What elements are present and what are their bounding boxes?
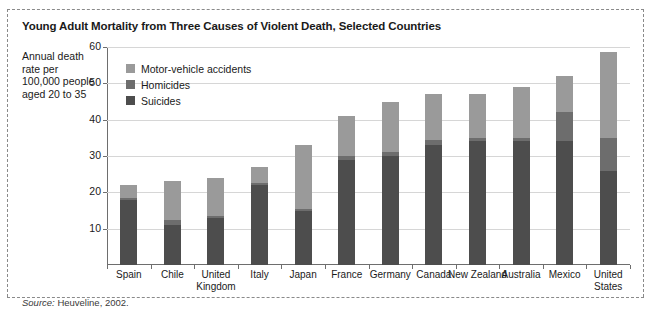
y-axis-label: Annual death rate per 100,000 people age… [22, 50, 98, 100]
bar-segment-motor-vehicle-accidents [600, 52, 617, 137]
stacked-bar[interactable] [469, 94, 486, 265]
bar-segment-suicides [382, 156, 399, 265]
stacked-bar[interactable] [207, 178, 224, 265]
bar-slot [543, 47, 587, 265]
bar-segment-suicides [207, 218, 224, 265]
legend-item-homicides[interactable]: Homicides [126, 78, 251, 91]
legend-label: Suicides [141, 95, 181, 107]
bar-slot [499, 47, 543, 265]
bar-segment-motor-vehicle-accidents [425, 94, 442, 139]
bar-segment-homicides [600, 138, 617, 171]
legend-swatch-icon [126, 64, 135, 73]
legend-item-suicides[interactable]: Suicides [126, 94, 251, 107]
bar-segment-motor-vehicle-accidents [338, 116, 355, 156]
x-tick-mark [630, 265, 631, 269]
bar-segment-suicides [556, 141, 573, 265]
bar-segment-suicides [600, 171, 617, 265]
y-tick-label-40: 40 [75, 113, 101, 125]
bar-segment-suicides [164, 225, 181, 265]
legend-label: Motor-vehicle accidents [141, 63, 251, 75]
stacked-bar[interactable] [425, 94, 442, 265]
stacked-bar[interactable] [556, 76, 573, 265]
bar-slot [456, 47, 500, 265]
stacked-bar[interactable] [251, 167, 268, 265]
y-tick-label-20: 20 [75, 185, 101, 197]
bar-segment-suicides [425, 145, 442, 265]
legend-item-motor-vehicle[interactable]: Motor-vehicle accidents [126, 62, 251, 75]
bar-segment-suicides [120, 200, 137, 265]
bar-segment-motor-vehicle-accidents [164, 181, 181, 219]
stacked-bar[interactable] [382, 102, 399, 265]
bar-segment-motor-vehicle-accidents [120, 185, 137, 198]
bar-segment-suicides [338, 160, 355, 265]
legend-swatch-icon [126, 80, 135, 89]
legend-swatch-icon [126, 96, 135, 105]
bar-segment-motor-vehicle-accidents [469, 94, 486, 138]
bar-segment-motor-vehicle-accidents [513, 87, 530, 138]
chart-legend: Motor-vehicle accidentsHomicidesSuicides [126, 62, 251, 110]
figure-container: Young Adult Mortality from Three Causes … [0, 0, 651, 316]
bar-slot [586, 47, 630, 265]
stacked-bar[interactable] [600, 52, 617, 265]
bar-segment-homicides [556, 112, 573, 141]
stacked-bar[interactable] [120, 185, 137, 265]
stacked-bar[interactable] [513, 87, 530, 265]
bar-segment-suicides [513, 141, 530, 265]
bar-segment-motor-vehicle-accidents [295, 145, 312, 209]
bar-segment-motor-vehicle-accidents [382, 102, 399, 153]
bar-segment-motor-vehicle-accidents [251, 167, 268, 183]
source-prefix: Source: [22, 297, 55, 308]
legend-label: Homicides [141, 79, 190, 91]
bar-slot [369, 47, 413, 265]
bar-slot [325, 47, 369, 265]
y-tick-label-60: 60 [75, 40, 101, 52]
y-tick-label-30: 30 [75, 149, 101, 161]
y-tick-label-50: 50 [75, 76, 101, 88]
stacked-bar[interactable] [338, 116, 355, 265]
stacked-bar[interactable] [164, 181, 181, 265]
y-tick-label-10: 10 [75, 222, 101, 234]
bar-segment-suicides [295, 211, 312, 266]
stacked-bar[interactable] [295, 145, 312, 265]
bar-slot [412, 47, 456, 265]
bar-segment-suicides [251, 185, 268, 265]
source-text: Heuveline, 2002. [57, 297, 128, 308]
bar-segment-motor-vehicle-accidents [207, 178, 224, 216]
bar-segment-motor-vehicle-accidents [556, 76, 573, 112]
bar-slot [281, 47, 325, 265]
chart-title: Young Adult Mortality from Three Causes … [22, 20, 441, 32]
x-tick-label-united-states: United States [578, 269, 638, 292]
source-note: Source: Heuveline, 2002. [22, 297, 129, 308]
bar-segment-suicides [469, 141, 486, 265]
